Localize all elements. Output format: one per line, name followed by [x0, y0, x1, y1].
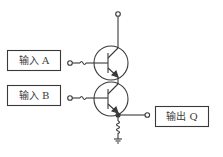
resistor-icon — [117, 121, 120, 139]
input-b-label: 输入 B — [19, 89, 50, 101]
input-a-wire — [68, 61, 94, 66]
input-b-wire — [68, 96, 94, 101]
output-terminal-icon — [145, 113, 150, 118]
ground-icon — [114, 139, 122, 143]
circuit-diagram: 输入 A 输入 B 输出 Q — [0, 0, 223, 157]
supply-terminal-icon — [116, 12, 121, 17]
output-q-label: 输出 Q — [166, 110, 197, 122]
upper-transistor-icon — [94, 46, 128, 80]
lower-transistor-icon — [94, 82, 128, 116]
input-a-label: 输入 A — [19, 54, 50, 66]
